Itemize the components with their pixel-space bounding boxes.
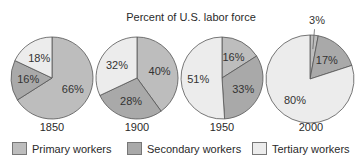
slice-label: 16% <box>17 73 39 85</box>
year-label-2000: 2000 <box>286 121 336 133</box>
slice-label: 3% <box>309 14 325 26</box>
slice-label: 80% <box>284 94 306 106</box>
slice-label: 40% <box>149 65 171 77</box>
legend-swatch-tertiary <box>252 142 267 155</box>
slice-label: 51% <box>187 73 209 85</box>
legend-label-primary: Primary workers <box>32 143 111 155</box>
slice-label: 66% <box>62 83 84 95</box>
slice-label: 18% <box>28 52 50 64</box>
legend-item-tertiary: Tertiary workers <box>252 142 350 155</box>
slice-label: 16% <box>222 51 244 63</box>
legend-label-secondary: Secondary workers <box>147 143 241 155</box>
slice-label: 32% <box>106 59 128 71</box>
legend-swatch-secondary <box>127 142 142 155</box>
slice-label: 28% <box>120 95 142 107</box>
legend-label-tertiary: Tertiary workers <box>272 143 350 155</box>
slice-label: 17% <box>316 54 338 66</box>
year-label-1950: 1950 <box>197 121 247 133</box>
legend-swatch-primary <box>12 142 27 155</box>
legend-item-primary: Primary workers <box>12 142 111 155</box>
slice-label: 33% <box>232 83 254 95</box>
legend-item-secondary: Secondary workers <box>127 142 241 155</box>
year-label-1900: 1900 <box>112 121 162 133</box>
year-label-1850: 1850 <box>27 121 77 133</box>
